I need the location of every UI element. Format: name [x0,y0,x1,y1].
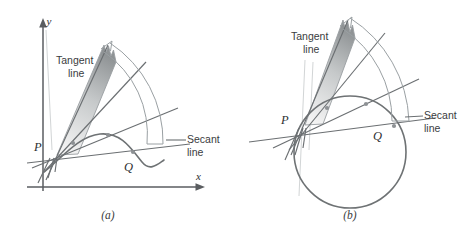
secant-leader-b [405,116,423,117]
sweep-arc-a-outer [110,43,163,144]
intersection-dot-a-2 [106,133,110,137]
secant-label-b: Secant line [405,109,457,134]
intersection-dot-b-2 [364,102,368,106]
intersection-dot-b-3 [392,124,396,128]
secant-label-b-line2: line [424,122,441,134]
secant-label-b-line1: Secant [424,109,457,121]
intersection-dot-a-1 [71,141,75,145]
secant-label-a-line2: line [187,146,204,158]
tangent-label-b: Tangent line [291,30,328,55]
secant-stub-b-1 [285,128,299,160]
intersection-dot-b-1 [325,106,329,110]
y-axis-label: y [46,15,52,27]
x-axis-arrowhead [196,183,206,191]
ghost-guide-a [46,30,52,150]
panel-caption-b: (b) [343,209,357,222]
figure-root: y x P Q Tangent lin [0,0,467,236]
tangent-label-a-line2: line [68,67,85,79]
point-label-P-a: P [33,140,42,154]
point-label-Q-b: Q [373,129,382,143]
tangent-label-b-line1: Tangent [291,30,328,42]
tangent-label-a-line1: Tangent [56,54,93,66]
tangent-label-a: Tangent line [56,54,93,79]
panel-a-curve-figure: y x P Q Tangent lin [0,0,233,236]
panel-b-circle-figure: P Q Tangent line Secant line (b) [233,0,467,236]
point-label-P-b: P [280,113,289,127]
circle-b [294,96,406,208]
secant-label-a-line1: Secant [187,133,220,145]
intersection-dot-a-3 [131,150,135,154]
point-label-Q-a: Q [124,160,133,174]
panel-caption-a: (a) [101,209,115,222]
tangent-label-b-line2: line [303,43,320,55]
x-axis-label: x [195,170,201,182]
secant-line-b-3 [249,118,435,142]
